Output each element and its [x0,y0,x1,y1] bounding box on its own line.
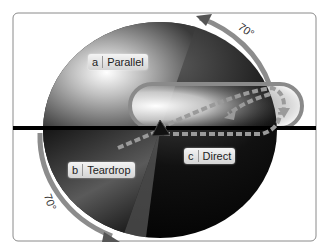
sector-name: Direct [203,150,232,162]
sector-label-parallel: a Parallel [88,54,148,70]
sector-name: Parallel [107,56,144,68]
sector-label-direct: c Direct [184,148,235,164]
sector-letter: b [72,164,83,176]
sector-name: Teardrop [87,164,130,176]
holding-entry-diagram: a Parallel b Teardrop c Direct 70° 70° [0,0,329,252]
sector-letter: a [92,56,103,68]
sector-label-teardrop: b Teardrop [68,162,135,178]
diagram-canvas [0,0,329,252]
sector-letter: c [188,150,199,162]
